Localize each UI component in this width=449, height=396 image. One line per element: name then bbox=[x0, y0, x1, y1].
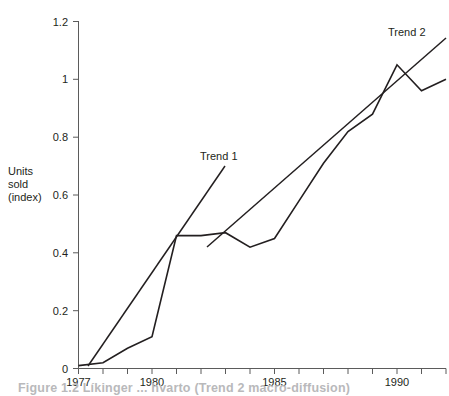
y-tick-label-1-2: 1.2 bbox=[53, 16, 68, 28]
line-chart: 1.2 1 0.8 0.6 0.4 0.2 0 1977 1980 bbox=[0, 0, 449, 396]
figure-caption-text: Figure 1.2 Líkinger ... hvarto (Trend 2 … bbox=[18, 381, 449, 396]
trend-1-label: Trend 1 bbox=[200, 150, 238, 162]
y-tick-label-0-6: 0.6 bbox=[53, 189, 68, 201]
figure-container: 1.2 1 0.8 0.6 0.4 0.2 0 1977 1980 bbox=[0, 0, 449, 396]
y-axis-title-line-2: sold bbox=[8, 178, 28, 190]
y-tick-label-0-8: 0.8 bbox=[53, 131, 68, 143]
y-axis-title-line-3: (index) bbox=[8, 191, 42, 203]
x-axis-ticks bbox=[79, 369, 447, 375]
y-tick-label-0-2: 0.2 bbox=[53, 305, 68, 317]
figure-caption: Figure 1.2 Líkinger ... hvarto (Trend 2 … bbox=[18, 381, 449, 396]
y-tick-label-0: 0 bbox=[62, 363, 68, 375]
y-axis-title-line-1: Units bbox=[8, 165, 34, 177]
trend-1-line bbox=[88, 166, 225, 366]
trend-2-label: Trend 2 bbox=[388, 26, 426, 38]
units-sold-series-line bbox=[79, 65, 447, 366]
y-tick-label-1: 1 bbox=[62, 73, 68, 85]
trend-2-line bbox=[207, 38, 446, 247]
y-tick-label-0-4: 0.4 bbox=[53, 247, 68, 259]
y-axis-ticks bbox=[73, 22, 79, 369]
